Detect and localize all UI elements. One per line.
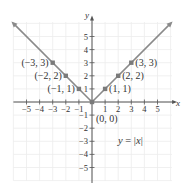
y-axis-label: y <box>84 10 89 20</box>
x-axis-label: x <box>175 98 180 108</box>
data-point-label: (−2, 2) <box>34 70 61 82</box>
x-tick-label: −3 <box>48 104 57 114</box>
x-tick-label: −4 <box>35 104 45 114</box>
y-tick-label: −2 <box>79 123 88 133</box>
data-point-marker <box>129 61 133 65</box>
y-tick-label: −1 <box>79 110 88 120</box>
data-point-label: (2, 2) <box>122 70 144 82</box>
y-tick-label: −4 <box>79 149 89 159</box>
data-point-marker <box>103 87 107 91</box>
data-point-label: (0, 0) <box>96 113 118 125</box>
equation-label: y = |x| <box>117 135 143 146</box>
x-tick-label: 3 <box>129 104 133 114</box>
data-point-marker <box>90 100 94 104</box>
y-tick-label: 5 <box>84 32 88 42</box>
x-tick-label: 4 <box>142 104 147 114</box>
data-point-label: (−3, 3) <box>21 57 48 69</box>
data-point-marker <box>51 61 55 65</box>
y-axis-arrow-icon <box>90 16 94 21</box>
y-tick-label: 1 <box>84 84 88 94</box>
data-point-marker <box>64 74 68 78</box>
data-point-marker <box>77 87 81 91</box>
x-tick-label: −5 <box>22 104 31 114</box>
x-tick-label: −2 <box>61 104 70 114</box>
y-tick-label: 2 <box>84 71 88 81</box>
y-tick-label: −5 <box>79 163 88 173</box>
x-tick-label: 5 <box>155 104 159 114</box>
data-point-label: (3, 3) <box>135 57 157 69</box>
data-point-marker <box>116 74 120 78</box>
data-point-label: (−1, 1) <box>48 83 75 95</box>
y-tick-label: −3 <box>79 136 88 146</box>
data-point-label: (1, 1) <box>109 83 131 95</box>
y-tick-label: 3 <box>84 58 88 68</box>
absolute-value-graph: −5−4−3−2−11234554321−1−2−3−4−5 (−3, 3)(−… <box>0 0 185 183</box>
